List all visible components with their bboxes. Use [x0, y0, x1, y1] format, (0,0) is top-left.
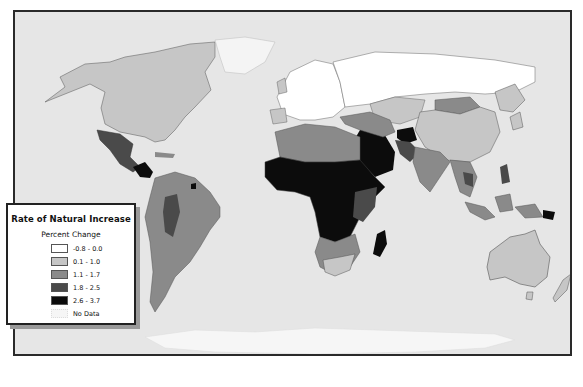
legend-item: 0.1 - 1.0 — [51, 256, 100, 267]
legend-swatch — [51, 270, 68, 279]
region-south-america[interactable] — [145, 172, 220, 312]
legend-item: 1.1 - 1.7 — [51, 269, 100, 280]
legend-subtitle: Percent Change — [8, 230, 134, 239]
region-guiana[interactable] — [191, 183, 196, 189]
region-antarctica[interactable] — [145, 328, 515, 354]
legend-title: Rate of Natural Increase — [8, 214, 134, 224]
region-north-america[interactable] — [45, 42, 215, 142]
region-papua[interactable] — [543, 210, 555, 220]
legend-swatch — [51, 257, 68, 266]
map-legend: Rate of Natural Increase Percent Change … — [6, 203, 136, 325]
legend-label: 2.6 - 3.7 — [73, 297, 100, 305]
legend-swatch — [51, 244, 68, 253]
legend-label: 1.1 - 1.7 — [73, 271, 100, 279]
region-north-africa[interactable] — [275, 124, 360, 162]
region-tasmania[interactable] — [526, 292, 533, 300]
region-madagascar[interactable] — [373, 230, 387, 257]
legend-label: No Data — [73, 310, 99, 318]
legend-item: 2.6 - 3.7 — [51, 295, 100, 306]
region-east-africa[interactable] — [353, 187, 377, 222]
region-caribbean[interactable] — [155, 152, 175, 158]
legend-label: -0.8 - 0.0 — [73, 245, 103, 253]
region-europe[interactable] — [277, 60, 345, 120]
region-east-asia[interactable] — [495, 84, 525, 130]
region-new-zealand[interactable] — [553, 274, 571, 302]
legend-swatch — [51, 309, 68, 318]
region-mexico[interactable] — [97, 130, 140, 172]
legend-item: No Data — [51, 308, 99, 319]
region-indonesia[interactable] — [465, 194, 543, 220]
legend-item: 1.8 - 2.5 — [51, 282, 100, 293]
legend-item: -0.8 - 0.0 — [51, 243, 103, 254]
region-greenland[interactable] — [215, 37, 275, 74]
region-australia[interactable] — [487, 230, 550, 287]
legend-swatch — [51, 283, 68, 292]
legend-swatch — [51, 296, 68, 305]
legend-label: 1.8 - 2.5 — [73, 284, 100, 292]
region-philippines[interactable] — [500, 164, 510, 184]
legend-label: 0.1 - 1.0 — [73, 258, 100, 266]
